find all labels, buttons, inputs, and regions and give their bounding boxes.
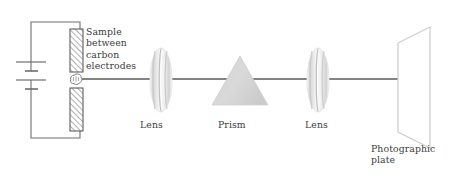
lens-1	[150, 48, 172, 112]
electrode-top	[70, 29, 83, 72]
prism	[212, 56, 268, 105]
spark-arc-icon	[71, 74, 82, 84]
label-sample-between-carbon-electrodes: Sample between carbon electrodes	[86, 26, 136, 72]
label-lens-1: Lens	[140, 119, 163, 130]
spectrograph-diagram: Sample between carbon electrodes Lens Pr…	[0, 0, 449, 177]
photographic-plate	[398, 27, 430, 148]
label-photographic-plate: Photographic plate	[371, 143, 435, 166]
label-prism: Prism	[218, 119, 246, 130]
battery-symbol	[16, 62, 46, 89]
electrode-bottom	[70, 88, 83, 131]
lens-2	[307, 48, 329, 112]
label-lens-2: Lens	[305, 119, 328, 130]
